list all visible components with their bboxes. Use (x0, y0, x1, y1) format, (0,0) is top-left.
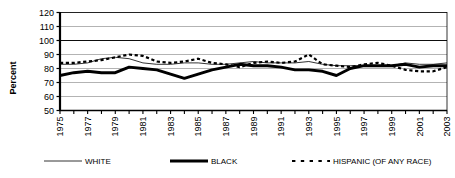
series-line-black (60, 64, 447, 78)
y-tick-label: 70 (44, 78, 54, 88)
x-tick-label: 2001 (415, 117, 425, 137)
x-tick-label: 1999 (387, 117, 397, 137)
x-tick-label: 1995 (332, 117, 342, 137)
y-axis-ticks: 5060708090100110120 (39, 8, 60, 116)
x-tick-label: 1993 (304, 117, 314, 137)
series-line-hispanic (60, 55, 447, 72)
legend-label-white: WHITE (85, 157, 111, 166)
y-tick-label: 110 (40, 22, 54, 32)
x-tick-label: 1991 (276, 117, 286, 137)
data-series-group (60, 55, 447, 79)
x-tick-label: 1979 (110, 117, 120, 137)
x-tick-label: 1983 (166, 117, 176, 137)
y-axis-label-text: Percent (8, 61, 18, 94)
legend-label-black: BLACK (211, 157, 238, 166)
chart-canvas: Percent 5060708090100110120 197519771979… (0, 0, 455, 178)
x-tick-label: 1997 (359, 117, 369, 137)
line-chart-figure: Percent 5060708090100110120 197519771979… (0, 0, 455, 178)
y-tick-label: 50 (44, 106, 54, 116)
x-tick-label: 1989 (249, 117, 259, 137)
y-tick-label: 80 (44, 64, 54, 74)
x-tick-label: 1985 (193, 117, 203, 137)
x-tick-label: 1987 (221, 117, 231, 137)
y-tick-label: 120 (39, 8, 54, 18)
x-axis-tick-labels: 1975197719791981198319851987198919911993… (55, 117, 452, 137)
x-tick-label: 1977 (83, 117, 93, 137)
y-tick-label: 60 (44, 92, 54, 102)
x-tick-label: 1981 (138, 117, 148, 137)
chart-legend: WHITEBLACKHISPANIC (OF ANY RACE) (44, 157, 432, 166)
x-tick-label: 1975 (55, 117, 65, 137)
y-tick-label: 100 (39, 36, 54, 46)
y-tick-label: 90 (44, 50, 54, 60)
legend-label-hispanic: HISPANIC (OF ANY RACE) (333, 157, 432, 166)
y-axis-label: Percent (8, 61, 18, 94)
x-tick-label: 2003 (442, 117, 452, 137)
